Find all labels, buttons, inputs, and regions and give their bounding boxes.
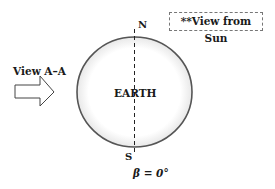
view-a-a-label: View A–A [13,65,66,77]
beta-angle-label: β = 0° [133,167,169,179]
view-from-sun-note: **View from Sun [169,12,263,31]
earth-label: EARTH [114,87,156,99]
north-label: N [138,19,147,30]
south-label: S [125,151,132,162]
view-arrow-icon [15,76,54,106]
earth-view-diagram: **View from Sun View A–A EARTH N S β = 0… [0,0,275,189]
